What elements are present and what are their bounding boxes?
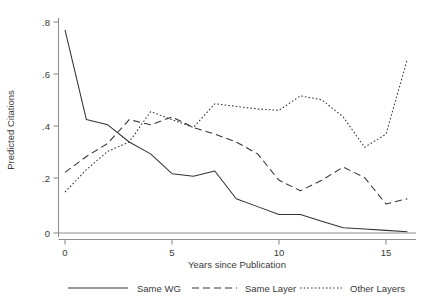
legend-label-same-wg: Same WG (137, 283, 181, 294)
y-tick-label: 0 (45, 228, 50, 239)
x-tick-label: 15 (381, 247, 392, 258)
y-tick-labels: .8 .6 .4 .2 0 (42, 17, 50, 239)
series-line-same-wg (65, 30, 407, 232)
y-tick-label: .2 (42, 173, 50, 184)
series-line-other-layers (65, 59, 407, 192)
y-tick-label: .4 (42, 121, 50, 132)
x-tick-label: 10 (274, 247, 285, 258)
predicted-citations-line-chart: Predicted Citations .8 .6 .4 .2 0 (0, 0, 424, 303)
y-axis-title: Predicted Citations (5, 90, 16, 170)
x-axis (59, 240, 417, 245)
x-tick-label: 0 (62, 247, 67, 258)
y-axis (54, 18, 59, 237)
chart-legend: Same WG Same Layer Other Layers (68, 283, 405, 294)
y-tick-label: .6 (42, 69, 50, 80)
chart-figure: Predicted Citations .8 .6 .4 .2 0 (0, 0, 424, 303)
series-line-same-layer (65, 117, 407, 204)
x-axis-title: Years since Publication (188, 259, 286, 270)
y-tick-label: .8 (42, 17, 50, 28)
legend-label-other-layers: Other Layers (350, 283, 405, 294)
series-group (65, 30, 407, 232)
x-tick-label: 5 (169, 247, 174, 258)
legend-label-same-layer: Same Layer (245, 283, 296, 294)
x-tick-labels: 0 5 10 15 (62, 247, 391, 258)
